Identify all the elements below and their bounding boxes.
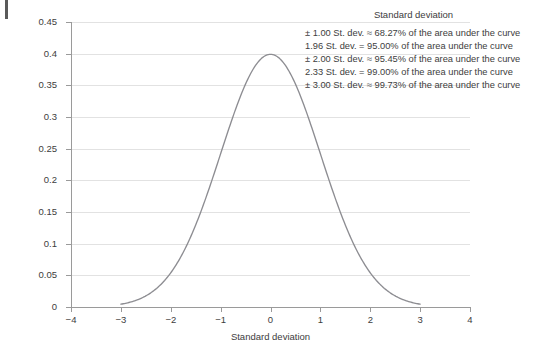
x-tick-label: 1 [300, 314, 340, 325]
x-tick-label: −4 [51, 314, 91, 325]
legend-line: 1.96 St. dev. = 95.00% of the area under… [305, 40, 530, 53]
legend-lines: ± 1.00 St. dev. ≈ 68.27% of the area und… [305, 27, 530, 92]
x-axis-title: Standard deviation [71, 331, 470, 342]
y-tick-label: 0.15 [0, 206, 57, 217]
x-tick-label: 2 [350, 314, 390, 325]
x-tick [470, 307, 471, 312]
y-tick-label: 0.1 [0, 238, 57, 249]
y-tick-label: 0 [0, 301, 57, 312]
x-tick-label: −3 [101, 314, 141, 325]
legend-line: ± 3.00 St. dev. ≈ 99.73% of the area und… [305, 79, 530, 92]
legend-title: Standard deviation [307, 9, 520, 20]
x-tick-label: −1 [201, 314, 241, 325]
legend-line: ± 1.00 St. dev. ≈ 68.27% of the area und… [305, 27, 530, 40]
y-tick-label: 0.4 [0, 48, 57, 59]
legend-line: ± 2.00 St. dev. ≈ 95.45% of the area und… [305, 53, 530, 66]
y-tick-label: 0.25 [0, 143, 57, 154]
x-tick-label: −2 [151, 314, 191, 325]
y-tick-label: 0.05 [0, 269, 57, 280]
legend: Standard deviation ± 1.00 St. dev. ≈ 68.… [305, 9, 530, 92]
y-tick-label: 0.45 [0, 16, 57, 27]
x-tick-label: 3 [400, 314, 440, 325]
normal-distribution-chart: 00.050.10.150.20.250.30.350.40.45 −4−3−2… [0, 0, 535, 356]
y-tick-label: 0.2 [0, 174, 57, 185]
y-tick-label: 0.35 [0, 79, 57, 90]
legend-line: 2.33 St. dev. = 99.00% of the area under… [305, 66, 530, 79]
x-tick-label: 0 [251, 314, 291, 325]
y-tick-label: 0.3 [0, 111, 57, 122]
x-tick-label: 4 [450, 314, 490, 325]
